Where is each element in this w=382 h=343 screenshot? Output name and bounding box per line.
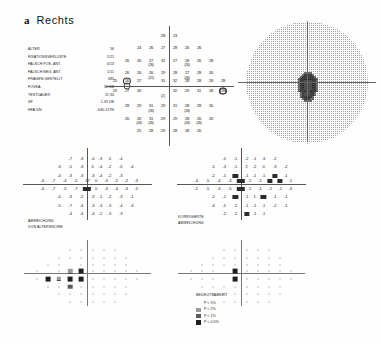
grayscale-stipple [303, 23, 304, 24]
grayscale-stipple [269, 91, 270, 92]
grayscale-stipple [297, 59, 298, 60]
grayscale-stipple [267, 83, 268, 84]
grayscale-stipple [319, 99, 320, 100]
grayscale-stipple [285, 47, 286, 48]
symbol-s0-icon [246, 271, 247, 272]
deviation-value: -2 [125, 179, 128, 183]
grayscale-stipple [265, 41, 266, 42]
grayscale-stipple [357, 101, 358, 102]
grayscale-stipple [287, 83, 288, 84]
grayscale-stipple [289, 31, 290, 32]
grayscale-stipple [283, 95, 284, 96]
grayscale-stipple [303, 73, 304, 74]
grayscale-stipple [343, 101, 344, 102]
grayscale-stipple [249, 89, 250, 90]
grayscale-stipple [303, 129, 304, 130]
deviation-value: -5 [74, 179, 77, 183]
grayscale-stipple [263, 119, 264, 120]
grayscale-stipple [349, 115, 350, 116]
grayscale-stipple [349, 43, 350, 44]
grayscale-stipple [301, 59, 302, 60]
grayscale-stipple [279, 59, 280, 60]
symbol-s0-icon [257, 301, 258, 302]
grayscale-stipple [249, 91, 250, 92]
grayscale-stipple [323, 101, 324, 102]
grayscale-stipple [299, 41, 300, 42]
grayscale-stipple [313, 29, 314, 30]
grayscale-stipple [273, 87, 274, 88]
grayscale-stipple [287, 67, 288, 68]
grayscale-stipple [329, 101, 330, 102]
grayscale-stipple [281, 41, 282, 42]
grayscale-stipple [257, 107, 258, 108]
probability-symbol [190, 279, 191, 280]
deviation-value: -3 [57, 165, 60, 169]
grayscale-stipple [303, 117, 304, 118]
grayscale-stipple [291, 37, 292, 38]
symbol-s0-icon [103, 301, 104, 302]
grayscale-stipple [341, 51, 342, 52]
grayscale-stipple [337, 75, 338, 76]
deviation-value: -1 [253, 174, 256, 178]
grayscale-stipple [269, 61, 270, 62]
grayscale-stipple [357, 59, 358, 60]
grayscale-stipple [271, 85, 272, 86]
grayscale-stipple [281, 83, 282, 84]
threshold-value: 26 [197, 59, 201, 63]
grayscale-stipple [361, 57, 362, 58]
grayscale-stipple [289, 25, 290, 26]
grayscale-stipple [321, 29, 322, 30]
grayscale-stipple [261, 89, 262, 90]
grayscale-stipple [313, 123, 314, 124]
grayscale-stipple [261, 55, 262, 56]
grayscale-stipple [301, 133, 302, 134]
grayscale-stipple [359, 99, 360, 100]
grayscale-stipple [269, 59, 270, 60]
grayscale-stipple [337, 43, 338, 44]
grayscale-stipple [327, 137, 328, 138]
grayscale-stipple [323, 129, 324, 130]
grayscale-stipple [359, 65, 360, 66]
grayscale-stipple [285, 125, 286, 126]
grayscale-stipple [285, 69, 286, 70]
grayscale-stipple [349, 47, 350, 48]
grayscale-stipple [339, 65, 340, 66]
grayscale-stipple [301, 29, 302, 30]
grayscale-stipple [275, 67, 276, 68]
grayscale-stipple [285, 35, 286, 36]
grayscale-stipple [289, 101, 290, 102]
grayscale-stipple [275, 63, 276, 64]
grayscale-stipple [279, 35, 280, 36]
grayscale-stipple [355, 73, 356, 74]
grayscale-stipple [273, 51, 274, 52]
grayscale-stipple [285, 61, 286, 62]
grayscale-stipple [313, 59, 314, 60]
probability-symbol [269, 250, 270, 251]
grayscale-stipple [277, 67, 278, 68]
grayscale-stipple [269, 85, 270, 86]
grayscale-stipple [285, 49, 286, 50]
grayscale-stipple [311, 49, 312, 50]
grayscale-stipple [323, 127, 324, 128]
grayscale-stipple [339, 109, 340, 110]
grayscale-stipple [287, 121, 288, 122]
symbol-s0-icon [246, 250, 247, 251]
grayscale-stipple [311, 29, 312, 30]
probability-symbol [115, 265, 116, 266]
threshold-value: 26 [137, 71, 141, 75]
deviation-value: -5 [135, 187, 138, 191]
grayscale-stipple [345, 79, 346, 80]
grayscale-stipple [291, 133, 292, 134]
grayscale-stipple [289, 119, 290, 120]
grayscale-stipple [275, 39, 276, 40]
grayscale-stipple [311, 33, 312, 34]
grayscale-stipple [353, 117, 354, 118]
grayscale-stipple [309, 51, 310, 52]
grayscale-stipple [283, 109, 284, 110]
grayscale-stipple [261, 65, 262, 66]
grayscale-stipple [303, 141, 304, 142]
grayscale-stipple [337, 93, 338, 94]
grayscale-stipple [311, 141, 312, 142]
grayscale-stipple [273, 49, 274, 50]
threshold-value: 28 [197, 79, 201, 83]
